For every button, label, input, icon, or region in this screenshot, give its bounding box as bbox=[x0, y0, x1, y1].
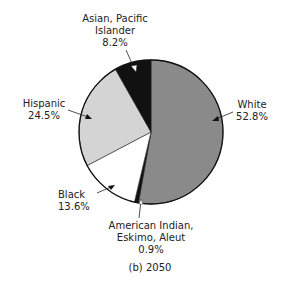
label-asian-value: 8.2% bbox=[74, 37, 156, 49]
label-white-value: 52.8% bbox=[230, 111, 274, 123]
label-asian: Asian, Pacific Islander 8.2% bbox=[74, 13, 156, 49]
label-asian-line1: Asian, Pacific bbox=[74, 13, 156, 25]
label-black-value: 13.6% bbox=[58, 201, 98, 213]
label-amindian-line2: Eskimo, Aleut bbox=[96, 232, 206, 244]
label-black: Black 13.6% bbox=[58, 189, 98, 213]
label-hispanic-value: 24.5% bbox=[14, 110, 74, 122]
label-amindian: American Indian, Eskimo, Aleut 0.9% bbox=[96, 220, 206, 256]
label-hispanic-line1: Hispanic bbox=[14, 98, 74, 110]
label-amindian-value: 0.9% bbox=[96, 244, 206, 256]
label-black-line1: Black bbox=[58, 189, 98, 201]
label-white: White 52.8% bbox=[230, 99, 274, 123]
label-amindian-line1: American Indian, bbox=[96, 220, 206, 232]
label-asian-line2: Islander bbox=[74, 25, 156, 37]
pie-slices bbox=[79, 60, 223, 204]
label-hispanic: Hispanic 24.5% bbox=[14, 98, 74, 122]
chart-caption: (b) 2050 bbox=[100, 262, 200, 274]
label-white-line1: White bbox=[230, 99, 274, 111]
